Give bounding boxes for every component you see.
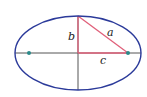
focus-left	[27, 51, 31, 55]
side-a	[78, 16, 128, 53]
label-a: a	[107, 26, 114, 39]
focus-right	[126, 51, 130, 55]
label-b: b	[68, 30, 75, 43]
label-c: c	[100, 54, 106, 67]
ellipse-diagram: b a c	[0, 0, 147, 97]
